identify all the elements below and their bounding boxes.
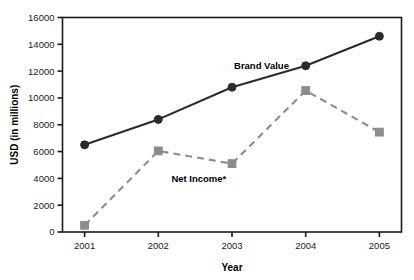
data-point-marker — [375, 128, 383, 136]
x-tick-label: 2004 — [295, 240, 316, 251]
data-point-marker — [228, 160, 236, 168]
y-tick-label: 0 — [49, 226, 54, 237]
line-chart: 0200040006000800010000120001400016000 20… — [0, 0, 414, 280]
y-axis-title: USD (in millions) — [9, 85, 20, 165]
y-tick-label: 12000 — [28, 66, 54, 77]
data-point-marker — [81, 141, 89, 149]
y-tick-label: 16000 — [28, 12, 54, 23]
data-point-marker — [228, 83, 236, 91]
series-label-brand-value: Brand Value — [234, 60, 289, 71]
x-tick-label: 2003 — [221, 240, 242, 251]
data-point-marker — [154, 115, 162, 123]
series-label-net-income: Net Income* — [171, 173, 226, 184]
y-tick-label: 2000 — [33, 200, 54, 211]
y-tick-label: 14000 — [28, 39, 54, 50]
data-point-marker — [154, 147, 162, 155]
y-tick-label: 4000 — [33, 173, 54, 184]
data-point-marker — [302, 62, 310, 70]
data-point-marker — [81, 221, 89, 229]
y-tick-label: 6000 — [33, 146, 54, 157]
data-point-marker — [302, 87, 310, 95]
chart-container: 0200040006000800010000120001400016000 20… — [0, 0, 414, 280]
x-axis-title: Year — [221, 262, 242, 273]
data-point-marker — [375, 32, 383, 40]
x-tick-label: 2005 — [369, 240, 390, 251]
x-tick-label: 2002 — [148, 240, 169, 251]
y-tick-label: 8000 — [33, 119, 54, 130]
y-tick-label: 10000 — [28, 92, 54, 103]
x-tick-label: 2001 — [74, 240, 95, 251]
